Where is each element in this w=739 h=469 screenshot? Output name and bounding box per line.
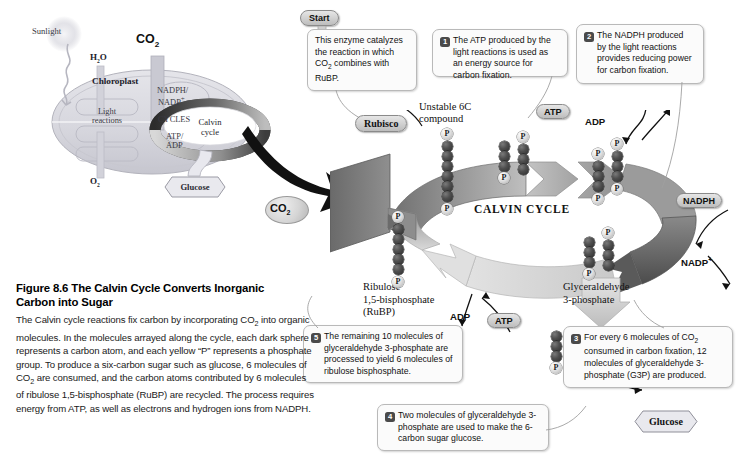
callout-1: 1The ATP produced by the light reactions… <box>432 29 568 77</box>
inset-h2o-label: H2O <box>90 52 107 64</box>
nadp-plus-label: NADP+ <box>681 254 712 270</box>
co2-entry-label: CO2 <box>270 202 290 220</box>
callout-5-text: The remaining 10 molecules of glyceralde… <box>324 331 454 377</box>
phosphate-sphere: P <box>583 268 595 280</box>
callout-4: 4Two molecules of glyceraldehyde 3-phosp… <box>377 404 549 451</box>
atp-top-pill: ATP <box>536 104 570 119</box>
phosphate-sphere: P <box>392 211 404 223</box>
phosphate-sphere: P <box>611 138 623 150</box>
carbon-sphere <box>593 181 604 192</box>
inset-co2-label: CO2 <box>136 32 159 49</box>
inset-adp-label: ADP <box>166 141 183 150</box>
phosphate-sphere: P <box>611 183 623 195</box>
carbon-sphere <box>551 351 562 362</box>
inset-nadph-label: NADPH/ <box>157 86 188 95</box>
start-tab[interactable]: Start <box>300 10 339 26</box>
g3p-label: Glyceraldehyde 3-phosphate <box>563 281 629 306</box>
adp-bottom-label: ADP <box>450 311 470 324</box>
adp-top-label: ADP <box>585 116 605 129</box>
phosphate-sphere: P <box>517 131 529 143</box>
carbon-sphere <box>518 164 529 175</box>
calvin-cycle-title: CALVIN CYCLE <box>474 203 570 216</box>
phosphate-sphere: P <box>592 193 604 205</box>
carbon-sphere <box>499 161 510 172</box>
carbon-sphere <box>442 191 453 202</box>
inset-chloroplast-label: Chloroplast <box>92 76 138 86</box>
inset-glucose-label: Glucose <box>164 176 226 198</box>
callout-1-number: 1 <box>440 37 450 47</box>
rubisco-pill[interactable]: Rubisco <box>355 115 407 132</box>
glucose-label: Glucose <box>634 410 698 433</box>
phosphate-sphere: P <box>592 148 604 160</box>
callout-2: 2The NADPH produced by the light reactio… <box>576 24 704 84</box>
inset-sunlight-label: Sunlight <box>32 26 61 36</box>
callout-3: 3For every 6 molecules of CO2 consumed i… <box>563 326 733 388</box>
figure-body-text: The Calvin cycle reactions fix carbon by… <box>16 313 314 415</box>
figure-caption: Figure 8.6 The Calvin Cycle Converts Ino… <box>16 281 314 415</box>
phosphate-sphere: P <box>441 128 453 140</box>
phosphate-sphere: P <box>392 276 404 288</box>
inset-nadp-plus-label: NADP+ <box>158 95 185 107</box>
nadph-pill: NADPH <box>676 193 722 208</box>
atp-bottom-pill: ATP <box>487 313 521 328</box>
carbon-sphere <box>584 257 595 268</box>
callout-4-leader <box>546 406 588 432</box>
inset-glucose-hexagon: Glucose <box>164 176 226 198</box>
callout-3-text: For every 6 molecules of CO2 consumed in… <box>584 332 724 381</box>
callout-enzyme-text: This enzyme catalyzes the reaction in wh… <box>315 35 403 83</box>
phosphate-sphere: P <box>498 172 510 184</box>
unstable-6c-label: Unstable 6C compound <box>419 101 471 125</box>
inset-atp-adp-label: ATP/ <box>166 132 183 141</box>
callout-3-number: 3 <box>571 334 581 344</box>
callout-4-number: 4 <box>385 412 395 422</box>
carbon-sphere <box>603 260 614 271</box>
callout-2-text: The NADPH produced by the light reaction… <box>597 30 695 76</box>
callout-1-text: The ATP produced by the light reactions … <box>453 35 559 81</box>
phosphate-sphere: P <box>441 203 453 215</box>
figure-title: Figure 8.6 The Calvin Cycle Converts Ino… <box>16 281 314 309</box>
callout-4-text: Two molecules of glyceraldehyde 3-phosph… <box>398 410 540 445</box>
callout-5: 5The remaining 10 molecules of glycerald… <box>303 325 463 383</box>
glucose-hexagon: Glucose <box>634 410 698 433</box>
figure-canvas: Sunlight H2O CO2 Chloroplast NADPH/ NADP… <box>0 0 739 469</box>
callout-2-number: 2 <box>584 32 594 42</box>
callout-enzyme: This enzyme catalyzes the reaction in wh… <box>307 29 417 91</box>
inset-light-reactions-label: Light reactions <box>83 107 131 125</box>
phosphate-sphere: P <box>550 362 562 374</box>
inset-o2-label: O2 <box>90 176 100 188</box>
carbon-sphere <box>612 171 623 182</box>
inset-calvin-cycle-label: Calvin cycle <box>186 117 234 137</box>
phosphate-sphere: P <box>602 227 614 239</box>
carbon-sphere <box>393 264 404 275</box>
